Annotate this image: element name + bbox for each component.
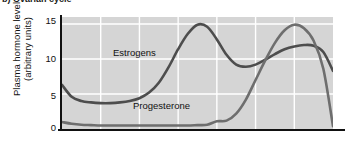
chart-svg <box>62 17 333 129</box>
y-axis-title-line2: (arbitrary units) <box>22 0 33 107</box>
y-tick-10: 10 <box>40 53 56 64</box>
y-axis-tick-labels: 15 10 5 0 <box>38 0 56 145</box>
y-tick-0: 0 <box>40 122 56 133</box>
y-tick-15: 15 <box>40 15 56 26</box>
estrogens-curve <box>62 24 333 103</box>
y-axis-title-line1: Plasma hormone level <box>11 2 22 96</box>
ovarian-cycle-hormone-chart: b) Ovarian cycle Plasma hormone level (a… <box>0 0 345 145</box>
estrogens-series-label: Estrogens <box>113 47 156 58</box>
x-axis-line <box>58 129 345 131</box>
plot-area <box>62 17 333 129</box>
progesterone-curve <box>62 25 333 127</box>
y-tick-5: 5 <box>40 90 56 101</box>
progesterone-series-label: Progesterone <box>133 100 190 111</box>
gridlines <box>62 17 333 129</box>
y-axis-title: Plasma hormone level (arbitrary units) <box>11 0 33 107</box>
